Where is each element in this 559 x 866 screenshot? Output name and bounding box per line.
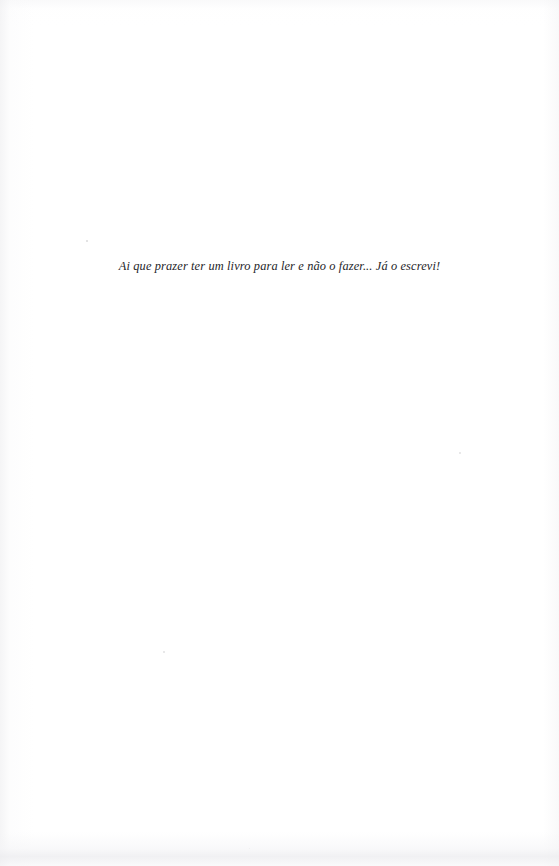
epigraph: Ai que prazer ter um livro para ler e nã… [0,256,559,274]
speck-above-text [86,240,88,242]
speck-bottom-center [249,848,250,849]
scan-bottom-edge-shading [0,832,559,866]
scan-paper-tint [0,0,559,866]
speck-lower-left [163,651,165,653]
epigraph-text: Ai que prazer ter um livro para ler e nã… [119,258,440,274]
speck-mid-right [459,452,461,454]
scanned-page: Ai que prazer ter um livro para ler e nã… [0,0,559,866]
scan-right-edge-shading [543,0,559,866]
